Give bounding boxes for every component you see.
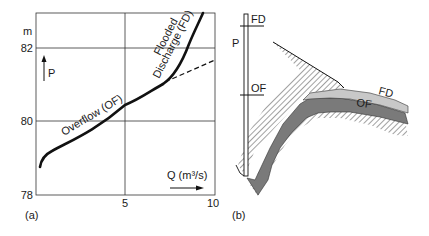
figure: m 82 80 78 5 10 (a) P Q (m³/s) Overflow … — [0, 0, 429, 236]
y-tick-78: 78 — [21, 189, 33, 201]
panel-a-chart: m 82 80 78 5 10 (a) P Q (m³/s) Overflow … — [21, 8, 219, 221]
y-tick-80: 80 — [21, 115, 33, 127]
p-arrow-icon — [42, 55, 47, 81]
panel-b-diagram: FD OF P FD OF (b) — [232, 13, 408, 221]
layer-label-of: OF — [356, 96, 373, 110]
of-extrapolation-dashed — [165, 60, 215, 82]
p-axis-label: P — [48, 67, 55, 79]
x-tick-5: 5 — [122, 197, 128, 209]
gauge-label-fd: FD — [251, 13, 266, 25]
gauge-label-of: OF — [251, 82, 267, 94]
gauge-label-p: P — [232, 37, 239, 49]
x-tick-10: 10 — [207, 197, 219, 209]
panel-a-label: (a) — [25, 209, 38, 221]
y-unit-label: m — [23, 25, 32, 37]
q-arrow-icon — [170, 186, 204, 191]
of-curve — [40, 84, 163, 167]
y-tick-82: 82 — [21, 42, 33, 54]
panel-b-label: (b) — [232, 209, 245, 221]
q-axis-label: Q (m³/s) — [167, 169, 207, 181]
